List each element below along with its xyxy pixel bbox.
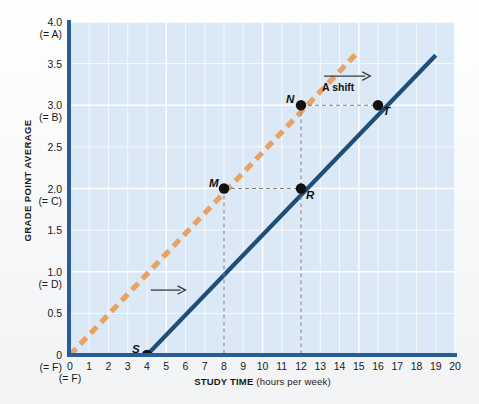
y-tick-value: 4.0 xyxy=(47,16,62,28)
x-tick-value: 6 xyxy=(183,360,189,372)
y-tick-value: 2.0 xyxy=(47,183,62,195)
x-tick-value: 19 xyxy=(430,360,442,372)
x-tick-value: 9 xyxy=(240,360,246,372)
y-tick-0: 0(= F) xyxy=(2,349,62,373)
x-tick-value: 13 xyxy=(314,360,326,372)
x-axis-title: STUDY TIME (hours per week) xyxy=(70,376,455,387)
data-point-r xyxy=(296,183,306,193)
y-tick-value: 3.0 xyxy=(47,99,62,111)
x-tick-value: 17 xyxy=(391,360,403,372)
grid-lines xyxy=(70,22,455,355)
y-tick-grade: (= F) xyxy=(2,361,62,373)
x-tick-value: 12 xyxy=(295,360,307,372)
y-tick-value: 0.5 xyxy=(47,307,62,319)
x-tick-20: 20 xyxy=(443,360,467,372)
grade-point-average-chart: 4.0(= A)3.53.0(= B)2.52.0(= C)1.51.0(= D… xyxy=(0,0,479,404)
x-tick-value: 0 xyxy=(67,360,73,372)
point-label-m: M xyxy=(209,177,219,189)
plot-area xyxy=(70,22,455,355)
y-tick-4-0: 4.0(= A) xyxy=(2,16,62,40)
y-axis-title: GRADE POINT AVERAGE xyxy=(22,96,33,266)
data-point-t xyxy=(373,100,383,110)
x-tick-value: 2 xyxy=(106,360,112,372)
y-tick-value: 2.5 xyxy=(47,141,62,153)
x-tick-value: 16 xyxy=(372,360,384,372)
y-tick-1-0: 1.0(= D) xyxy=(2,266,62,290)
x-tick-value: 5 xyxy=(163,360,169,372)
annotation-a-shift-label: A shift xyxy=(322,81,354,93)
data-point-m xyxy=(219,183,229,193)
y-tick-value: 1.0 xyxy=(47,266,62,278)
x-axis-title-main: STUDY TIME xyxy=(194,376,253,387)
x-axis-title-units: (hours per week) xyxy=(254,376,331,387)
y-tick-3-5: 3.5 xyxy=(2,58,62,70)
point-label-r: R xyxy=(306,189,314,201)
point-label-t: T xyxy=(383,105,390,117)
y-tick-grade: (= D) xyxy=(2,278,62,290)
series-original-line xyxy=(70,51,359,355)
x-tick-value: 3 xyxy=(125,360,131,372)
x-tick-value: 8 xyxy=(221,360,227,372)
x-tick-value: 11 xyxy=(276,360,287,372)
x-tick-value: 15 xyxy=(353,360,365,372)
y-tick-value: 1.5 xyxy=(47,224,62,236)
x-tick-value: 14 xyxy=(334,360,346,372)
data-point-n xyxy=(296,100,306,110)
x-tick-value: 1 xyxy=(86,360,92,372)
x-tick-value: 10 xyxy=(257,360,269,372)
x-tick-value: 18 xyxy=(411,360,423,372)
point-label-s: S xyxy=(132,343,140,355)
x-tick-value: 7 xyxy=(202,360,208,372)
x-tick-value: 4 xyxy=(144,360,150,372)
y-tick-0-5: 0.5 xyxy=(2,307,62,319)
y-axis-line xyxy=(67,20,71,357)
point-label-n: N xyxy=(286,93,294,105)
x-axis-line xyxy=(67,353,457,357)
x-tick-value: 20 xyxy=(449,360,461,372)
y-tick-value: 3.5 xyxy=(47,58,62,70)
y-tick-grade: (= A) xyxy=(2,28,62,40)
